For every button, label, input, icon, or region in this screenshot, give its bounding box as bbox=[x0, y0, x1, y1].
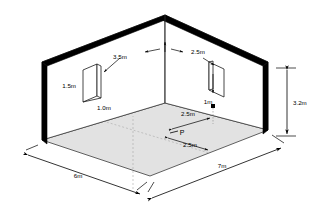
p-origin-marker bbox=[211, 104, 215, 108]
dim-label-1p5m: 1.5m bbox=[62, 82, 76, 89]
point-p-label: P bbox=[180, 129, 185, 136]
technical-drawing-canvas: 3.5m 2.5m 1.5m 1.0m 1m 2.5m P 2.5m 3.2m bbox=[0, 0, 316, 224]
dim-label-6m: 6m bbox=[74, 172, 83, 179]
dim-label-1m: 1m bbox=[204, 98, 213, 105]
dim-label-2p5m-window: 2.5m bbox=[191, 48, 205, 55]
dim-label-3p5m: 3.5m bbox=[113, 53, 127, 60]
left-wall-edge bbox=[42, 62, 47, 144]
dim-label-7m: 7m bbox=[218, 162, 227, 169]
room-isometric-svg: 3.5m 2.5m 1.5m 1.0m 1m 2.5m P 2.5m 3.2m bbox=[0, 0, 316, 224]
dim-label-2p5m-upper: 2.5m bbox=[181, 110, 195, 117]
left-window-pane bbox=[83, 64, 97, 102]
right-window-reveal bbox=[209, 61, 213, 90]
left-window-reveal bbox=[97, 64, 101, 98]
left-window-group bbox=[83, 64, 101, 102]
dim-label-2p5m-lower: 2.5m bbox=[183, 141, 197, 148]
dim-label-1p0m: 1.0m bbox=[97, 104, 111, 111]
right-wall-edge bbox=[263, 62, 268, 134]
dim-label-3p2m: 3.2m bbox=[293, 99, 307, 106]
